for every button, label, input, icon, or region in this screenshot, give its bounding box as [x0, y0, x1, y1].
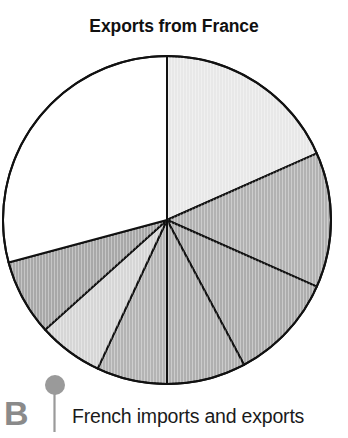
figure-caption-text: French imports and exports [72, 405, 304, 428]
section-letter-label: B [4, 396, 29, 430]
figure-caption-row: B French imports and exports [0, 374, 348, 436]
figure-pie-chart: Exports from France B French imports and… [0, 0, 348, 438]
pie-slice-group [3, 56, 331, 384]
pie-chart-svg [0, 0, 348, 400]
pin-marker-icon [44, 374, 66, 432]
pie-chart-area [0, 0, 348, 400]
